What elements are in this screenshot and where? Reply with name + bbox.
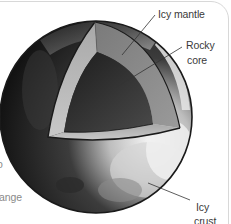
- label-rocky-core-line2: core: [187, 53, 207, 67]
- label-icy-mantle: Icy mantle: [158, 7, 205, 21]
- label-icy-crust-line1: Icy: [196, 200, 209, 214]
- moon-cutaway-diagram: [0, 0, 231, 224]
- clipped-text-fragment: o: [0, 157, 3, 171]
- label-rocky-core-line1: Rocky: [186, 38, 215, 52]
- label-icy-crust-line2: crust: [194, 214, 216, 224]
- clipped-text-fragment: ange: [0, 190, 22, 204]
